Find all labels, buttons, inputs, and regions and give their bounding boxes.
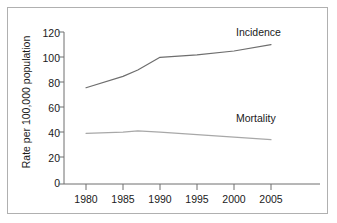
series-line-mortality [86, 131, 271, 140]
plot-svg [8, 8, 329, 215]
chart-figure-frame: Rate per 100,000 population 120 100 80 6… [7, 7, 328, 214]
line-chart: Rate per 100,000 population 120 100 80 6… [8, 8, 329, 215]
y-axis-ticks [58, 32, 64, 184]
x-axis-ticks [86, 184, 271, 190]
series-line-incidence [86, 45, 271, 88]
